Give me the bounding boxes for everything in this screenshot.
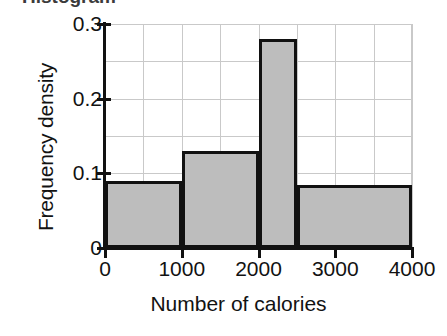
histogram-bar xyxy=(182,151,259,248)
histogram-figure: Histogram Frequency density 00.10.20.3 0… xyxy=(0,0,447,336)
y-axis-tick-mark xyxy=(97,23,111,26)
plot-border-top xyxy=(105,24,412,25)
x-axis-tick-label: 4000 xyxy=(367,258,447,280)
histogram-bar xyxy=(259,39,297,248)
histogram-bar xyxy=(105,181,182,248)
histogram-bar xyxy=(297,185,412,248)
x-axis-tick-labels: 01000200030004000 xyxy=(0,258,447,288)
y-axis-tick-label: 0 xyxy=(46,237,102,258)
y-axis-tick-mark xyxy=(97,98,111,101)
y-axis-tick-mark xyxy=(97,172,111,175)
y-axis-tick-label: 0.3 xyxy=(46,13,102,34)
y-axis-tick-label: 0.1 xyxy=(46,162,102,183)
x-axis-title: Number of calories xyxy=(0,292,447,316)
gridline-vertical xyxy=(412,24,413,248)
y-axis-tick-label: 0.2 xyxy=(46,88,102,109)
plot-area xyxy=(105,24,412,248)
